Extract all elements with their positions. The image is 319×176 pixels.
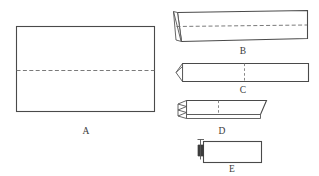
panel-d-label: D <box>219 126 226 136</box>
panel-c-body <box>183 64 309 82</box>
panel-d: D <box>178 101 267 137</box>
panel-e-body <box>204 142 262 163</box>
panel-a-sheet <box>17 27 155 112</box>
paper-folding-diagram: A B C <box>0 0 319 176</box>
panel-e-label: E <box>229 164 235 174</box>
panel-d-accordion-fold <box>178 101 187 119</box>
panel-c-label: C <box>240 85 246 95</box>
panel-d-top-face <box>187 101 267 115</box>
panel-a-label: A <box>83 126 90 136</box>
panel-b-label: B <box>240 46 246 56</box>
panel-d-front-face <box>187 115 261 119</box>
figure-root: A B C <box>0 0 319 176</box>
panel-c-fold-tip <box>176 64 183 82</box>
panel-a: A <box>17 27 155 137</box>
panel-e: E <box>198 140 262 175</box>
panel-b: B <box>174 11 308 57</box>
panel-c: C <box>176 64 309 96</box>
